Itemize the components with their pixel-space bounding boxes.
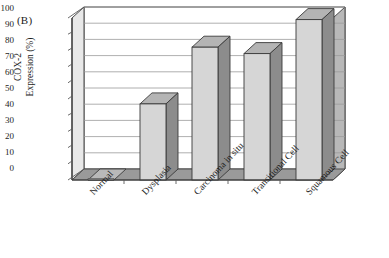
bar-transitional-cell <box>244 43 282 180</box>
bar-squamous-cell <box>296 9 334 180</box>
bar-dysplasia <box>140 93 178 180</box>
bar-chart-plot <box>0 0 389 258</box>
figure-panel-b: (B) COX-2 Expression (%) 100 90 80 70 60… <box>0 0 389 258</box>
plot-left-wall <box>72 7 84 180</box>
